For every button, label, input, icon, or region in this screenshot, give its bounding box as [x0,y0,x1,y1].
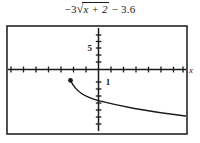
x-tick-label-1: 1 [106,77,111,87]
graph-figure: −3√x + 2 − 3.6 [0,0,200,143]
plot-frame [7,26,187,134]
y-tick-label-5: 5 [88,43,93,53]
curve-endpoint-marker [68,78,73,83]
x-axis-label: x [188,65,193,75]
plot-canvas: 5 1 x [0,0,200,143]
